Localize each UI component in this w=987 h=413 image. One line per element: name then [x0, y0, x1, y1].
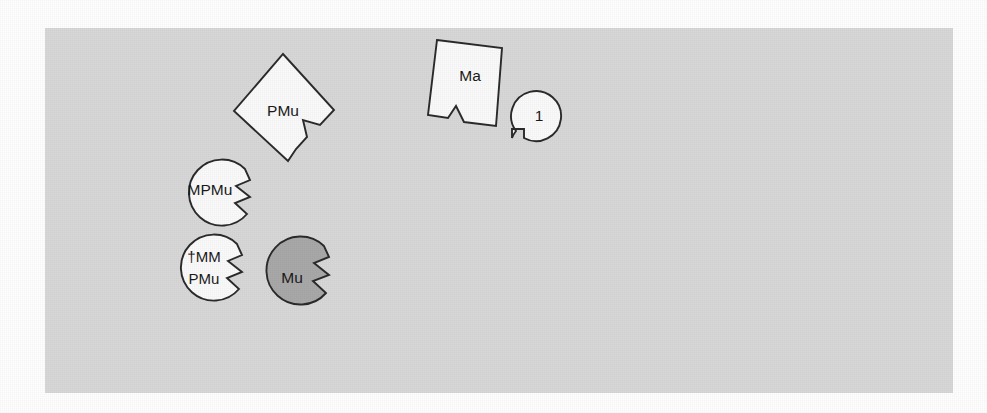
- piece-mu-label: Mu: [281, 269, 303, 286]
- piece-ma-label: Ma: [459, 67, 481, 84]
- diagram-canvas: PMu Ma 1 MPMu †MM PMu Mu: [0, 0, 987, 413]
- piece-mmpmu-label-line1: †MM: [187, 248, 220, 265]
- piece-mu[interactable]: Mu: [266, 237, 329, 305]
- piece-mpmu-label: MPMu: [188, 181, 233, 198]
- piece-pmu-label: PMu: [267, 102, 299, 119]
- figure-root: PMu Ma 1 MPMu †MM PMu Mu: [0, 0, 987, 413]
- piece-mmpmu-label-line2: PMu: [189, 270, 220, 287]
- piece-one-label: 1: [535, 107, 544, 124]
- piece-ma[interactable]: Ma: [428, 40, 502, 126]
- piece-mmpmu-shape: [181, 235, 242, 301]
- piece-mmpmu[interactable]: †MM PMu: [181, 235, 242, 301]
